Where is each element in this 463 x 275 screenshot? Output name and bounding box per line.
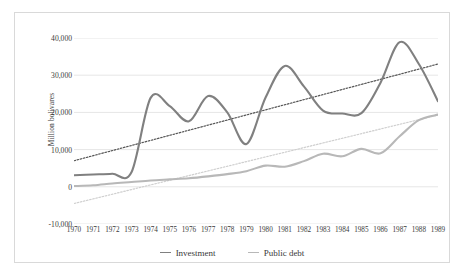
x-axis-tick-label: 1983 — [316, 226, 330, 234]
x-axis-tick-label: 1988 — [412, 226, 426, 234]
x-axis-tick-label: 1972 — [105, 226, 119, 234]
series-canvas — [74, 38, 438, 224]
x-axis-tick-label: 1974 — [143, 226, 157, 234]
legend-item-investment: Investment — [160, 248, 216, 258]
x-axis-tick-label: 1970 — [67, 226, 81, 234]
legend-swatch-investment — [160, 252, 171, 253]
x-axis-tick-label: 1976 — [182, 226, 196, 234]
x-axis-tick-label: 1987 — [392, 226, 406, 234]
x-axis-tick-label: 1971 — [86, 226, 100, 234]
x-axis-tick-label: 1977 — [201, 226, 215, 234]
y-axis-tick-label: 0 — [68, 182, 72, 191]
gridlines — [74, 38, 438, 224]
x-axis-tick-label: 1978 — [220, 226, 234, 234]
x-axis-tick-label: 1981 — [278, 226, 292, 234]
x-axis-tick-label: 1973 — [124, 226, 138, 234]
x-axis-tick-label: 1986 — [373, 226, 387, 234]
y-axis-tick-label: 30,000 — [51, 71, 72, 80]
legend-item-public-debt: Public debt — [248, 248, 305, 258]
legend-swatch-public-debt — [248, 252, 259, 253]
series-layer — [74, 42, 438, 204]
x-axis-tick-labels: 1970197119721973197419751976197719781979… — [74, 226, 438, 240]
chart-figure: Million bolivares 40,00030,00020,00010,0… — [0, 0, 463, 275]
legend-label-investment: Investment — [176, 248, 216, 258]
legend-label-public-debt: Public debt — [264, 248, 305, 258]
y-axis-tick-label: 40,000 — [51, 34, 72, 43]
x-axis-tick-label: 1980 — [258, 226, 272, 234]
x-axis-tick-label: 1984 — [335, 226, 349, 234]
plot-area — [74, 38, 438, 224]
y-axis-tick-labels: 40,00030,00020,00010,0000-10,000 — [30, 0, 72, 275]
chart-legend: Investment Public debt — [14, 245, 450, 261]
x-axis-tick-label: 1979 — [239, 226, 253, 234]
x-axis-tick-label: 1975 — [163, 226, 177, 234]
x-axis-tick-label: 1985 — [354, 226, 368, 234]
y-axis-tick-label: 20,000 — [51, 108, 72, 117]
series-line-investment — [74, 42, 438, 179]
x-axis-tick-label: 1982 — [297, 226, 311, 234]
trendline-public-debt-trendline — [74, 115, 438, 204]
y-axis-tick-label: 10,000 — [51, 145, 72, 154]
x-axis-tick-label: 1989 — [431, 226, 445, 234]
